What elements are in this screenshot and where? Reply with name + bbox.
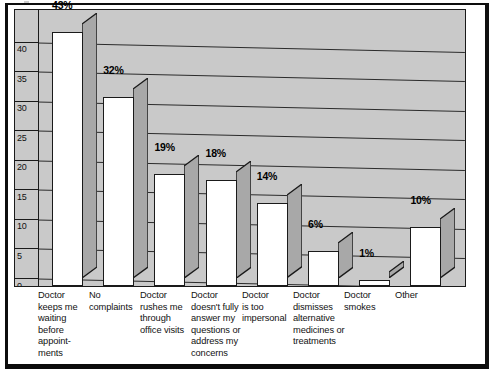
y-tick-40: [15, 42, 39, 43]
x-category-label-line: doesn't fully: [191, 302, 243, 314]
x-category-label-line: Doctor: [140, 290, 192, 302]
chart-page: 0510152025303540 43%32%19%18%14%6%1%10% …: [0, 0, 495, 376]
bar-side-face-7: [440, 208, 455, 278]
x-category-label-line: Other: [395, 290, 447, 302]
x-category-label-line: Doctor: [191, 290, 243, 302]
x-category-label-line: rushes me: [140, 302, 192, 314]
y-tick-label-5: 5: [17, 251, 22, 261]
x-category-label-line: appoint-: [38, 336, 90, 348]
y-tick-30: [15, 101, 39, 102]
y-tick-label-25: 25: [17, 133, 27, 143]
x-axis-category-labels: Doctorkeeps mewaitingbeforeappoint-ments…: [14, 290, 484, 372]
x-category-label-line: impersonal: [242, 313, 294, 325]
y-tick-15: [15, 189, 39, 190]
bar-side-face-1: [133, 78, 148, 278]
x-category-label-line: answer my: [191, 313, 243, 325]
x-category-label-line: Doctor: [344, 290, 396, 302]
x-category-label-line: Doctor: [38, 290, 90, 302]
x-category-label-line: Doctor: [242, 290, 294, 302]
bar-5: [308, 251, 339, 286]
y-tick-35: [15, 71, 39, 72]
x-category-label-line: concerns: [191, 348, 243, 360]
x-category-label-line: dismisses: [293, 302, 345, 314]
bar-0: [52, 32, 83, 286]
x-category-label-line: address my: [191, 336, 243, 348]
y-tick-5: [15, 248, 39, 249]
x-category-label-line: office visits: [140, 325, 192, 337]
bar-side-face-0: [82, 13, 97, 278]
x-category-label-line: medicines or: [293, 325, 345, 337]
y-tick-label-15: 15: [17, 192, 27, 202]
bar-side-face-2: [184, 155, 199, 278]
bar-value-label-3: 18%: [206, 147, 226, 159]
x-category-label-line: complaints: [89, 302, 141, 314]
bar-value-label-5: 6%: [308, 218, 323, 230]
bar-side-face-5: [338, 232, 353, 278]
bar-value-label-2: 19%: [154, 141, 174, 153]
y-axis: 0510152025303540: [15, 10, 39, 286]
x-category-label-line: ments: [38, 348, 90, 360]
bar-3: [206, 180, 237, 286]
x-category-label-0: Doctorkeeps mewaitingbeforeappoint-ments: [38, 290, 90, 360]
bar-1: [103, 97, 134, 286]
x-category-label-line: alternative: [293, 313, 345, 325]
bar-4: [257, 203, 288, 286]
y-tick-label-10: 10: [17, 221, 27, 231]
y-tick-label-30: 30: [17, 103, 27, 113]
x-category-label-1: Nocomplaints: [89, 290, 141, 313]
y-tick-label-40: 40: [17, 44, 27, 54]
y-tick-label-35: 35: [17, 74, 27, 84]
x-category-label-line: questions or: [191, 325, 243, 337]
x-category-label-line: waiting: [38, 313, 90, 325]
plot-area: 0510152025303540: [14, 9, 466, 287]
y-tick-20: [15, 160, 39, 161]
x-category-label-7: Other: [395, 290, 447, 302]
bar-6: [359, 280, 390, 286]
x-category-label-line: through: [140, 313, 192, 325]
x-category-label-2: Doctorrushes methroughoffice visits: [140, 290, 192, 336]
bar-side-face-6: [389, 261, 404, 278]
y-tick-10: [15, 219, 39, 220]
bar-value-label-4: 14%: [257, 170, 277, 182]
x-category-label-line: smokes: [344, 302, 396, 314]
bar-2: [154, 174, 185, 286]
x-category-label-line: treatments: [293, 336, 345, 348]
x-category-label-line: No: [89, 290, 141, 302]
bar-value-label-6: 1%: [359, 247, 374, 259]
bar-value-label-1: 32%: [103, 64, 123, 76]
x-category-label-line: Doctor: [293, 290, 345, 302]
y-tick-label-20: 20: [17, 162, 27, 172]
y-tick-25: [15, 130, 39, 131]
bar-7: [410, 227, 441, 286]
x-category-label-line: is too: [242, 302, 294, 314]
x-category-label-3: Doctordoesn't fullyanswer myquestions or…: [191, 290, 243, 360]
x-category-label-5: Doctordismissesalternativemedicines ortr…: [293, 290, 345, 348]
y-tick-0: [15, 278, 39, 279]
bar-side-face-4: [287, 184, 302, 278]
x-category-label-line: before: [38, 325, 90, 337]
bar-side-face-3: [236, 161, 251, 278]
bar-value-label-7: 10%: [410, 194, 430, 206]
y-tick-label-0: 0: [17, 281, 22, 288]
bar-value-label-0: 43%: [52, 0, 72, 11]
x-category-label-6: Doctorsmokes: [344, 290, 396, 313]
x-category-label-line: keeps me: [38, 302, 90, 314]
x-category-label-4: Doctoris tooimpersonal: [242, 290, 294, 325]
